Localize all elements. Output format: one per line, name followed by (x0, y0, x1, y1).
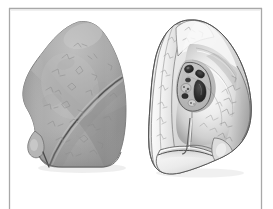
accessory-opening-upper (185, 78, 190, 82)
lung-anatomy-figure (0, 0, 273, 209)
figure-root: Lung specimen — lateral and medial views… (0, 0, 273, 209)
accessory-opening-lower (182, 93, 188, 98)
lingula-highlight (30, 139, 38, 151)
